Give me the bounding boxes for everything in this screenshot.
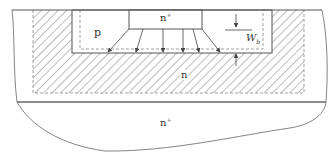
n-plus-substrate-label: n+ <box>160 118 171 128</box>
n-plus-emitter-label: n+ <box>160 13 171 23</box>
left-edge <box>12 10 17 102</box>
substrate-outline <box>17 102 326 151</box>
wb-label: Wb <box>246 33 260 45</box>
right-edge <box>322 10 327 102</box>
n-region-label: n <box>180 70 188 80</box>
p-region-label: p <box>94 27 101 38</box>
transistor-cross-section-diagram <box>0 0 334 162</box>
